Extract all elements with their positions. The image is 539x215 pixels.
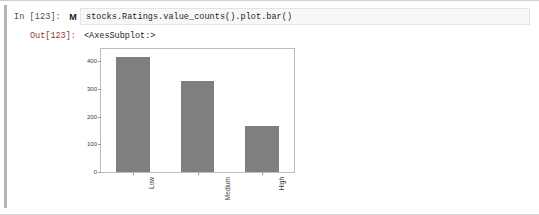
chart-x-tick-label: High [278, 177, 285, 190]
chart-y-tick-mark [98, 144, 101, 145]
chart-plot-area: 0100200300400 LowMediumHigh [101, 49, 294, 172]
chart-y-tick-label: 200 [77, 114, 97, 120]
chart-y-tick-label: 100 [77, 141, 97, 147]
jupyter-notebook-screenshot: In [123]: M stocks.Ratings.value_counts(… [0, 0, 539, 215]
chart-y-tick-label: 300 [77, 86, 97, 92]
code-input-text: stocks.Ratings.value_counts().plot.bar() [86, 12, 292, 22]
input-prompt-label: In [123]: [14, 12, 66, 22]
chart-y-tick-mark [98, 61, 101, 62]
chart-bar [116, 57, 149, 172]
chart-y-tick-label: 400 [77, 58, 97, 64]
chart-y-tick-mark [98, 172, 101, 173]
output-repr-text: <AxesSubplot:> [80, 31, 155, 41]
code-cell-input-row[interactable]: In [123]: M stocks.Ratings.value_counts(… [14, 7, 530, 26]
matplotlib-figure-output: 0100200300400 LowMediumHigh [78, 43, 318, 209]
chart-y-tick-mark [98, 89, 101, 90]
chart-bar [245, 126, 278, 172]
code-input-editor[interactable]: stocks.Ratings.value_counts().plot.bar() [80, 8, 530, 25]
cell-selection-gutter [4, 5, 7, 208]
output-prompt-label: Out[123]: [14, 31, 80, 41]
chart-x-tick-mark [198, 172, 199, 175]
chart-bars-layer [101, 49, 294, 172]
chart-bar [181, 81, 214, 172]
markdown-run-marker-icon: M [66, 12, 80, 22]
code-cell-output-row: Out[123]: <AxesSubplot:> [14, 29, 530, 43]
chart-x-tick-label: Medium [224, 177, 231, 200]
chart-axes-frame: 0100200300400 LowMediumHigh [100, 48, 295, 173]
chart-x-tick-mark [262, 172, 263, 175]
chart-x-tick-label: Low [148, 177, 155, 189]
chart-x-tick-mark [133, 172, 134, 175]
chart-y-tick-label: 0 [77, 169, 97, 175]
chart-y-tick-mark [98, 117, 101, 118]
